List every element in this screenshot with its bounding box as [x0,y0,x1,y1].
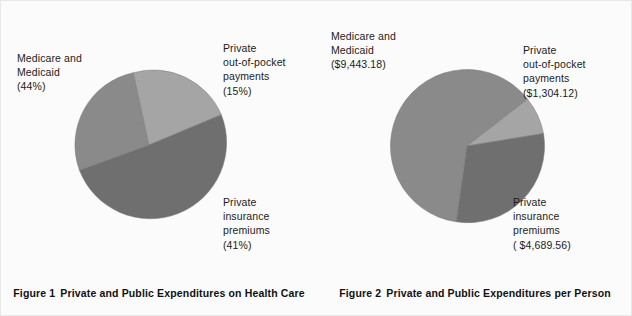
figure-1-caption: Figure 1Private and Public Expenditures … [1,287,317,299]
figure-2-panel: Medicare and Medicaid ($9,443.18) Privat… [317,1,632,316]
figure-2-label-out-of-pocket: Private out-of-pocket payments ($1,304.1… [523,43,627,100]
figure-1-label-medicare: Medicare and Medicaid (44%) [17,51,117,94]
figure-2-label-insurance: Private insurance premiums ( $4,689.56) [513,195,627,252]
figure-1-label-insurance: Private insurance premiums (41%) [223,195,315,252]
figure-sheet: Medicare and Medicaid (44%) Private out-… [0,0,632,316]
figure-2-caption: Figure 2Private and Public Expenditures … [317,287,632,299]
figure-2-caption-label: Figure 2 [339,287,381,299]
figure-2-caption-title: Private and Public Expenditures per Pers… [386,287,611,299]
figure-1-label-out-of-pocket: Private out-of-pocket payments (15%) [223,41,315,98]
figure-2-label-medicare: Medicare and Medicaid ($9,443.18) [331,29,443,72]
figure-1-caption-label: Figure 1 [13,287,55,299]
figure-1-caption-title: Private and Public Expenditures on Healt… [60,287,304,299]
figure-1-panel: Medicare and Medicaid (44%) Private out-… [1,1,317,316]
